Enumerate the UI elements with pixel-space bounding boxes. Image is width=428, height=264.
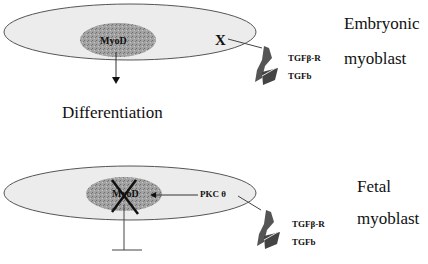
tgfb-receptor-label-top: TGFβ-R xyxy=(288,53,321,63)
embryonic-label: Embryonic xyxy=(344,14,420,34)
tgfb-receptor-label-bottom: TGFβ-R xyxy=(292,219,325,229)
embryonic-receptor-icon xyxy=(255,46,278,85)
fetal-receptor-icon xyxy=(257,210,280,249)
fetal-label: Fetal xyxy=(357,177,391,197)
tgfb-ligand-label-top: TGFb xyxy=(288,71,312,81)
myod-label-top: MyoD xyxy=(100,35,127,46)
pkc-theta-label: PKC θ xyxy=(200,189,226,199)
myoblast-label-top: myoblast xyxy=(344,49,406,69)
fetal-cell xyxy=(4,166,261,250)
tgfb-ligand-label-bottom: TGFb xyxy=(292,237,316,247)
myoblast-label-bottom: myoblast xyxy=(357,209,419,229)
differentiation-label: Differentiation xyxy=(62,103,163,123)
myod-label-bottom: MyoD xyxy=(112,188,139,199)
inhibitor-x-label: X xyxy=(215,32,226,49)
